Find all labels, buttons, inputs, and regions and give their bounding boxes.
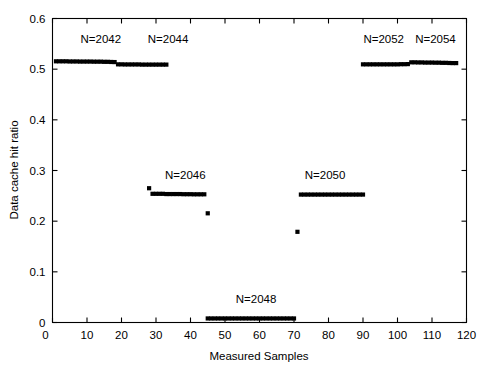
series-label: N=2044 [148,33,189,45]
y-tick-label: 0.5 [30,63,46,75]
data-series [206,316,296,320]
x-tick-label: 70 [288,329,301,341]
x-tick-label: 40 [184,329,197,341]
x-tick-label: 110 [423,329,441,341]
x-tick-label: 20 [115,329,128,341]
data-series [116,62,169,66]
data-series [299,192,365,196]
series-annotations-layer: N=2042N=2044N=2046N=2048N=2050N=2052N=20… [80,33,456,305]
y-tick-label: 0.1 [30,266,46,278]
data-series [361,62,410,66]
y-tick-label: 0.3 [30,165,46,177]
x-tick-label: 30 [150,329,163,341]
data-series [54,59,117,64]
x-tick-label: 90 [357,329,370,341]
series-label: N=2054 [415,33,456,45]
y-tick-label: 0 [39,317,45,329]
data-point [292,316,296,320]
data-point [147,186,151,190]
data-point [454,61,458,65]
data-series [147,186,206,196]
data-series [409,60,458,65]
x-tick-label: 80 [322,329,335,341]
series-label: N=2048 [236,293,277,305]
data-point [206,211,210,215]
chart-canvas: 1020304050607080901001101200 00.10.20.30… [0,0,478,368]
scatter-plot-figure: 1020304050607080901001101200 00.10.20.30… [0,0,478,368]
data-point [295,230,299,234]
data-series [295,230,299,234]
series-label: N=2052 [363,33,404,45]
series-label: N=2050 [305,169,346,181]
x-tick-label: 10 [81,329,94,341]
x-tick-label: 120 [457,329,476,341]
series-label: N=2042 [80,33,121,45]
data-point [202,192,206,196]
x-tick-label: 50 [219,329,232,341]
data-points-layer [54,59,458,320]
x-tick-label: 0 [42,329,48,341]
x-axis-ticks: 1020304050607080901001101200 [42,19,476,341]
y-tick-label: 0.6 [30,13,46,25]
data-series [206,211,210,215]
y-axis-label: Data cache hit ratio [8,120,20,219]
x-axis-label: Measured Samples [209,350,308,362]
data-point [361,192,365,196]
y-tick-label: 0.4 [30,114,47,126]
y-tick-label: 0.2 [30,215,46,227]
x-tick-label: 100 [388,329,407,341]
data-point [164,63,168,67]
series-label: N=2046 [165,169,206,181]
x-tick-label: 60 [253,329,266,341]
